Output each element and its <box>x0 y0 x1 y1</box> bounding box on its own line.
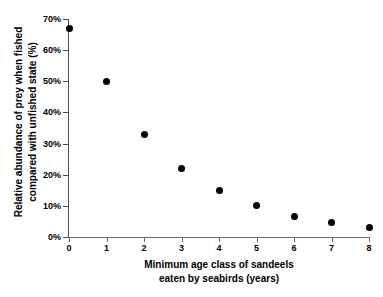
x-axis-tick <box>294 238 295 242</box>
y-axis-title-line: compared with unfished state (%) <box>26 12 40 232</box>
x-axis-tick <box>182 238 183 242</box>
data-point <box>141 131 148 138</box>
data-point <box>328 219 335 226</box>
x-axis-tick-label: 8 <box>359 243 379 253</box>
x-axis-tick <box>257 238 258 242</box>
x-axis-tick <box>69 238 70 242</box>
y-axis-tick <box>63 206 68 207</box>
data-point <box>103 78 110 85</box>
y-axis-tick <box>63 112 68 113</box>
x-axis-tick-label: 4 <box>209 243 229 253</box>
y-axis-tick <box>63 19 68 20</box>
y-axis-tick-label: 0% <box>21 233 61 242</box>
x-axis-tick-label: 0 <box>59 243 79 253</box>
x-axis-tick <box>107 238 108 242</box>
clipped-header-text <box>168 0 378 4</box>
scatter-chart-figure: 0%10%20%30%40%50%60%70% 012345678 Minimu… <box>0 0 383 297</box>
data-point <box>253 202 260 209</box>
x-axis-tick-label: 3 <box>172 243 192 253</box>
x-axis-tick-label: 2 <box>134 243 154 253</box>
y-axis-tick <box>63 81 68 82</box>
x-axis-title-line: eaten by seabirds (years) <box>69 272 369 286</box>
y-axis-line <box>68 19 69 238</box>
data-point <box>291 213 298 220</box>
y-axis-tick <box>63 144 68 145</box>
x-axis-tick <box>369 238 370 242</box>
x-axis-tick-label: 6 <box>284 243 304 253</box>
data-point <box>216 187 223 194</box>
x-axis-tick <box>332 238 333 242</box>
x-axis-tick <box>219 238 220 242</box>
y-axis-tick <box>63 50 68 51</box>
data-point <box>66 25 73 32</box>
x-axis-title-line: Minimum age class of sandeels <box>69 258 369 272</box>
x-axis-tick-label: 7 <box>322 243 342 253</box>
x-axis-title: Minimum age class of sandeelseaten by se… <box>69 258 369 286</box>
y-axis-title: Relative abundance of prey when fishedco… <box>12 12 40 232</box>
y-axis-title-line: Relative abundance of prey when fished <box>12 12 26 232</box>
data-point <box>178 165 185 172</box>
x-axis-tick-label: 5 <box>247 243 267 253</box>
x-axis-tick-label: 1 <box>97 243 117 253</box>
y-axis-tick <box>63 175 68 176</box>
y-axis-tick <box>63 237 68 238</box>
data-point <box>366 224 373 231</box>
x-axis-tick <box>144 238 145 242</box>
